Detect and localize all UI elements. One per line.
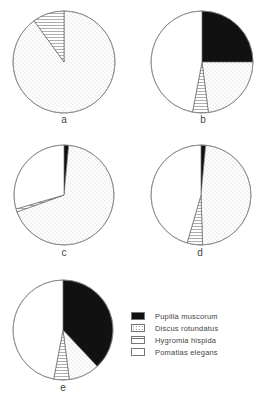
- pie-label-c: c: [62, 247, 67, 258]
- legend-item-discus: Discus rotundatus: [131, 322, 218, 334]
- hatched-swatch-icon: [131, 336, 145, 344]
- solid-black-swatch-icon: [131, 312, 145, 320]
- pie-label-a: a: [61, 114, 67, 125]
- legend-label: Pomatias elegans: [155, 348, 218, 357]
- legend: Pupilla muscorum Discus rotundatus Hygro…: [131, 310, 218, 358]
- pie-label-b: b: [200, 114, 206, 125]
- pie-slice: [151, 11, 202, 112]
- legend-label: Hygromia hispida: [155, 336, 216, 345]
- pie-slice: [202, 11, 253, 62]
- white-swatch-icon: [131, 348, 145, 356]
- legend-item-hygromia: Hygromia hispida: [131, 334, 218, 346]
- dotted-swatch-icon: [131, 324, 145, 332]
- legend-label: Discus rotundatus: [155, 324, 218, 333]
- legend-label: Pupilla muscorum: [155, 312, 218, 321]
- pie-chart-a: [13, 11, 115, 113]
- pie-slice: [13, 280, 63, 379]
- legend-item-pupilla: Pupilla muscorum: [131, 310, 218, 322]
- pie-chart-d: [151, 145, 251, 245]
- pie-label-e: e: [60, 382, 66, 393]
- pie-chart-c: [14, 145, 114, 245]
- pie-chart-e: [13, 280, 113, 380]
- pie-label-d: d: [197, 247, 203, 258]
- pie-slice: [201, 145, 251, 245]
- pie-slice: [202, 62, 253, 113]
- legend-item-pomatias: Pomatias elegans: [131, 346, 218, 358]
- pie-chart-b: [151, 11, 253, 113]
